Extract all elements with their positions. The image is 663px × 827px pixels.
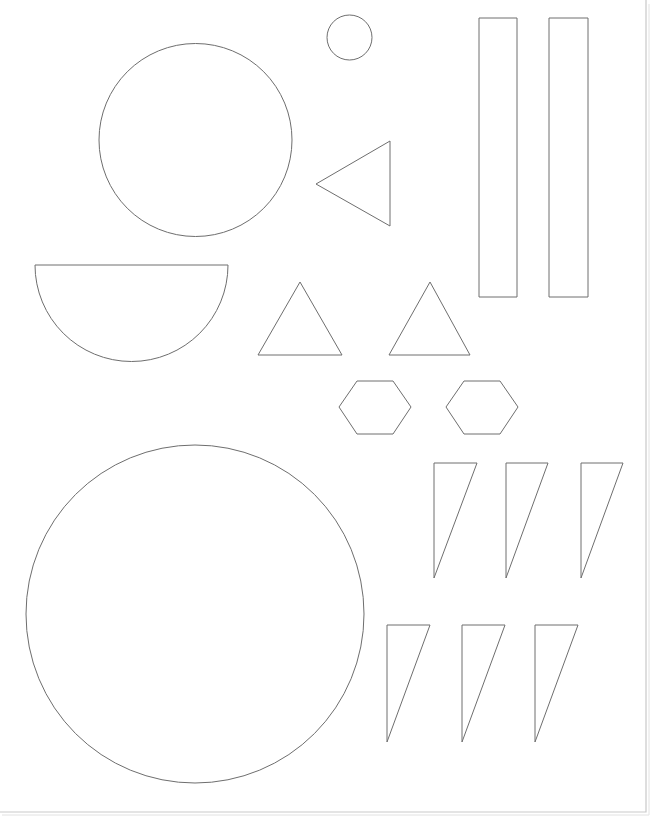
shape-circle-small[interactable] [327,15,372,60]
shape-rectangle-tall-2[interactable] [549,18,588,297]
shapes-template-page: Shapes Cutout Template Large circle Smal… [0,0,663,827]
shape-circle-large-bottom[interactable] [26,445,364,783]
shape-circle-large-top[interactable] [99,44,292,237]
shape-rectangle-tall-1[interactable] [479,18,517,297]
shapes-canvas [0,0,663,827]
